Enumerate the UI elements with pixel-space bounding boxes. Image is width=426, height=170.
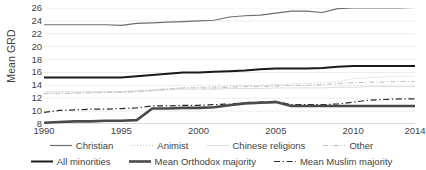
chart-legend: ChristianAnimistChinese religionsOther A… bbox=[0, 137, 423, 169]
legend-line-swatch-icon bbox=[323, 141, 345, 150]
legend-line-swatch-icon bbox=[50, 141, 72, 150]
legend-item-mean-muslim-majority[interactable]: Mean Muslim majority bbox=[274, 156, 392, 167]
y-axis-tick-20: 20 bbox=[22, 42, 42, 52]
y-axis-tick-22: 22 bbox=[22, 29, 42, 39]
legend-label: All minorities bbox=[57, 156, 111, 167]
legend-item-mean-orthodox-majority[interactable]: Mean Orthodox majority bbox=[129, 156, 256, 167]
legend-label: Animist bbox=[157, 140, 188, 151]
legend-item-all-minorities[interactable]: All minorities bbox=[31, 156, 111, 167]
legend-line-swatch-icon bbox=[129, 157, 151, 166]
y-axis-tick-10: 10 bbox=[22, 106, 42, 116]
x-axis-tick-2000: 2000 bbox=[188, 125, 209, 136]
series-line-christian bbox=[44, 8, 415, 25]
series-line-all-minorities bbox=[44, 66, 415, 78]
y-axis-tick-12: 12 bbox=[22, 93, 42, 103]
plot-svg bbox=[44, 8, 415, 124]
x-axis-tick-2005: 2005 bbox=[265, 125, 286, 136]
legend-label: Mean Muslim majority bbox=[300, 156, 392, 167]
x-axis-tick-2014: 2014 bbox=[404, 125, 425, 136]
y-axis-tick-26: 26 bbox=[22, 3, 42, 13]
series-line-mean-orthodox-majority bbox=[44, 102, 415, 123]
x-axis-tick-1995: 1995 bbox=[111, 125, 132, 136]
legend-item-christian[interactable]: Christian bbox=[50, 140, 114, 151]
legend-line-swatch-icon bbox=[31, 157, 53, 166]
legend-row-primary: ChristianAnimistChinese religionsOther bbox=[0, 137, 423, 153]
y-axis-tick-labels: 8101214161820222426 bbox=[20, 0, 42, 124]
y-axis-tick-18: 18 bbox=[22, 55, 42, 65]
legend-item-animist[interactable]: Animist bbox=[131, 140, 188, 151]
x-axis-tick-2010: 2010 bbox=[343, 125, 364, 136]
legend-label: Christian bbox=[76, 140, 114, 151]
legend-label: Chinese religions bbox=[233, 140, 306, 151]
legend-item-chinese-religions[interactable]: Chinese religions bbox=[207, 140, 306, 151]
y-axis-tick-16: 16 bbox=[22, 67, 42, 77]
y-axis-title: Mean GRD bbox=[5, 23, 17, 89]
series-line-animist bbox=[44, 76, 415, 93]
x-axis-tick-1990: 1990 bbox=[33, 125, 54, 136]
y-axis-tick-14: 14 bbox=[22, 80, 42, 90]
y-axis-tick-24: 24 bbox=[22, 16, 42, 26]
legend-label: Mean Orthodox majority bbox=[155, 156, 256, 167]
legend-row-secondary: All minoritiesMean Orthodox majorityMean… bbox=[0, 153, 423, 169]
legend-line-swatch-icon bbox=[131, 141, 153, 150]
legend-item-other[interactable]: Other bbox=[323, 140, 373, 151]
legend-label: Other bbox=[349, 140, 373, 151]
legend-line-swatch-icon bbox=[207, 141, 229, 150]
y-axis-title-container: Mean GRD bbox=[0, 0, 20, 128]
plot-area bbox=[44, 8, 415, 124]
legend-line-swatch-icon bbox=[274, 157, 296, 166]
